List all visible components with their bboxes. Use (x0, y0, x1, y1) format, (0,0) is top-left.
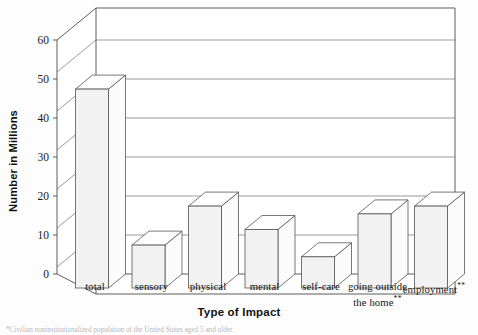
y-tick-label-20: 20 (38, 190, 50, 202)
y-tick-label-0: 0 (43, 268, 49, 280)
y-tick-label-40: 40 (38, 112, 50, 124)
bar-front-face (358, 214, 391, 288)
bar-front-face (76, 89, 109, 288)
bar-mental (245, 216, 295, 289)
y-tick-label-50: 50 (38, 73, 50, 85)
bar-physical (189, 192, 239, 288)
bar-side-face (222, 192, 239, 288)
bar-employment (415, 192, 465, 288)
x-category-label-employment: employment** (386, 280, 478, 295)
y-tick-label-30: 30 (38, 151, 50, 163)
figure-footnote: *Civilian noninstitutionalized populatio… (6, 326, 472, 334)
y-tick-marks (53, 40, 57, 274)
chart-figure: 0102030405060 totalsensoryphysicalmental… (0, 0, 478, 335)
bar-front-face (415, 206, 448, 288)
bar-front-face (189, 206, 222, 288)
y-tick-label-60: 60 (38, 34, 50, 46)
bar-side-face (391, 200, 408, 288)
bar-side-face (448, 192, 465, 288)
bar-total (76, 75, 126, 288)
y-tick-label-10: 10 (38, 229, 50, 241)
y-axis-title: Number in Millions (7, 86, 19, 236)
bar-going-outside-the-home (358, 200, 408, 288)
x-axis-title: Type of Impact (0, 306, 478, 318)
y-tick-label-group: 0102030405060 (38, 34, 50, 280)
bar-side-face (109, 75, 126, 288)
